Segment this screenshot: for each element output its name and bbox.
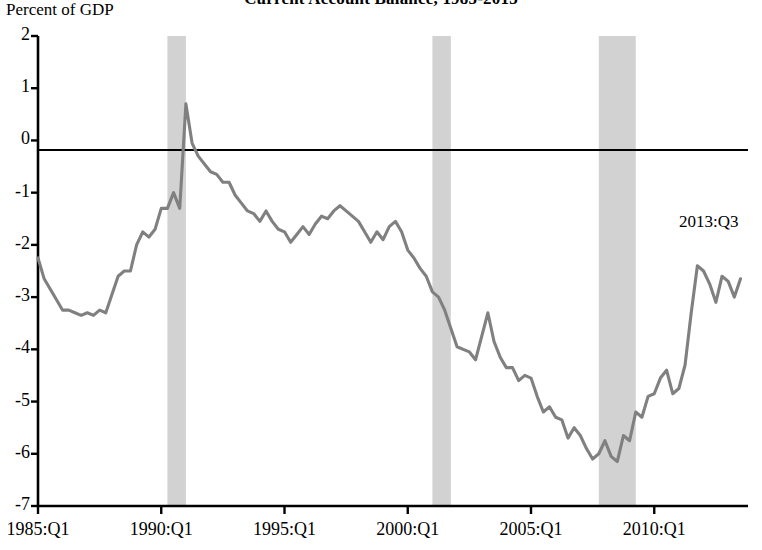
y-axis-tick-label: -1: [0, 181, 30, 202]
y-axis-tick-label: -7: [0, 494, 30, 515]
chart-figure: Current Account Balance, 1985-2013 Perce…: [0, 0, 762, 550]
x-axis-tick-label: 2010:Q1: [599, 519, 709, 540]
x-axis-tick-label: 2005:Q1: [476, 519, 586, 540]
y-axis-tick-label: -6: [0, 442, 30, 463]
recession-band: [432, 36, 450, 506]
y-axis-tick-label: 0: [0, 128, 30, 149]
x-axis-tick-label: 1990:Q1: [106, 519, 216, 540]
series-end-annotation: 2013:Q3: [679, 212, 739, 232]
y-axis-tick-label: 1: [0, 76, 30, 97]
x-axis-tick-label: 1985:Q1: [0, 519, 93, 540]
x-axis-tick-label: 2000:Q1: [353, 519, 463, 540]
y-axis-tick-label: -4: [0, 337, 30, 358]
y-axis-tick-label: 2: [0, 24, 30, 45]
y-axis-tick-label: -2: [0, 233, 30, 254]
x-axis-tick-label: 1995:Q1: [230, 519, 340, 540]
axis-ticks-group: [31, 36, 654, 514]
recession-band: [167, 36, 185, 506]
plot-area: [0, 0, 762, 550]
y-axis-tick-label: -5: [0, 390, 30, 411]
y-axis-tick-label: -3: [0, 285, 30, 306]
